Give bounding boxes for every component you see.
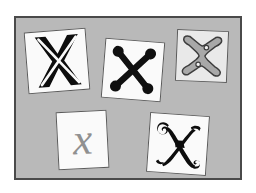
framed-panel: x bbox=[14, 16, 242, 180]
x-card-gray-slab[interactable] bbox=[175, 29, 229, 83]
x-card-gray-italic[interactable]: x bbox=[56, 110, 110, 171]
image-canvas: x bbox=[0, 0, 256, 193]
gray-italic-script-x-glyph: x bbox=[57, 111, 109, 169]
x-card-ornate-calligraphic[interactable] bbox=[146, 112, 210, 176]
x-card-bold-outlined[interactable] bbox=[24, 28, 91, 95]
gray-outlined-slab-x-icon bbox=[176, 30, 228, 82]
x-card-ball-terminal[interactable] bbox=[101, 38, 166, 103]
ornate-calligraphic-x-icon bbox=[147, 113, 209, 175]
ball-terminal-x-icon bbox=[102, 39, 164, 101]
bold-outlined-x-icon bbox=[25, 29, 90, 94]
